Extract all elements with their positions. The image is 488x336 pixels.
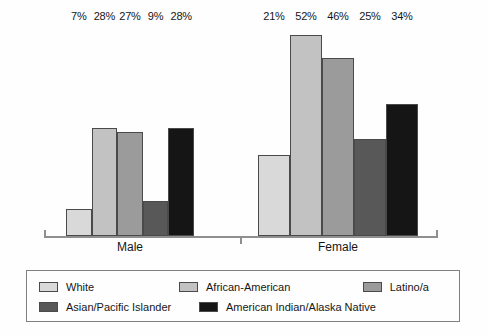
legend-item-label: Asian/Pacific Islander [66,301,171,314]
legend-row-2: Asian/Pacific IslanderAmerican Indian/Al… [27,297,459,317]
bar-group-male-bars: 7%28%27%9%28% [66,24,194,236]
bar [92,128,118,236]
group-label-female: Female [258,240,418,254]
bar [143,201,169,236]
bar [386,104,418,236]
bar-value-label: 7% [71,10,87,22]
bar-value-label: 46% [327,10,348,22]
bar-slot: 46% [322,24,354,236]
legend-swatch-icon [199,302,218,312]
bar-slot: 21% [258,24,290,236]
bar-group-female-bars: 21%52%46%25%34% [258,24,418,236]
bar-slot: 7% [66,24,92,236]
bar-slot: 27% [117,24,143,236]
group-label-male: Male [66,240,194,254]
bar-value-label: 28% [94,10,115,22]
bar-chart: 7%28%27%9%28% Male 21%52%46%25%34% Femal… [0,0,488,336]
bar [66,209,92,236]
legend-item-label: African-American [206,281,290,294]
legend-swatch-icon [363,282,382,292]
bar-value-label: 34% [391,10,412,22]
bar-group-male: 7%28%27%9%28% Male [66,0,194,260]
bar-slot: 9% [143,24,169,236]
bar-group-female: 21%52%46%25%34% Female [258,0,418,260]
x-axis-group-separator-tick [240,238,242,244]
legend-swatch-icon [39,302,58,312]
bar [168,128,194,236]
bar-value-label: 25% [359,10,380,22]
bar-value-label: 9% [148,10,164,22]
legend-swatch-icon [179,282,198,292]
bar [117,132,143,236]
bar-slot: 34% [386,24,418,236]
bar [290,35,322,236]
legend-swatch-icon [39,282,58,292]
bar-value-label: 21% [263,10,284,22]
legend-item-label: White [66,281,94,294]
legend-item[interactable]: Latino/a [363,281,459,294]
chart-legend: WhiteAfrican-AmericanLatino/a Asian/Paci… [26,270,460,322]
legend-item-label: Latino/a [390,281,429,294]
x-axis-right-cap [436,230,438,237]
legend-item[interactable]: Asian/Pacific Islander [39,301,199,314]
legend-row-1: WhiteAfrican-AmericanLatino/a [27,277,459,297]
bar-value-label: 52% [295,10,316,22]
legend-item-label: American Indian/Alaska Native [226,301,376,314]
bar-slot: 28% [168,24,194,236]
bar [258,155,290,236]
legend-item[interactable]: White [39,281,179,294]
plot-area: 7%28%27%9%28% Male 21%52%46%25%34% Femal… [0,0,488,260]
bar [322,58,354,236]
x-axis-left-cap [44,230,46,237]
legend-item[interactable]: African-American [179,281,363,294]
bar-slot: 25% [354,24,386,236]
bar-value-label: 27% [119,10,140,22]
legend-item[interactable]: American Indian/Alaska Native [199,301,409,314]
bar-slot: 28% [92,24,118,236]
bar-slot: 52% [290,24,322,236]
bar-value-label: 28% [170,10,191,22]
bar [354,139,386,236]
